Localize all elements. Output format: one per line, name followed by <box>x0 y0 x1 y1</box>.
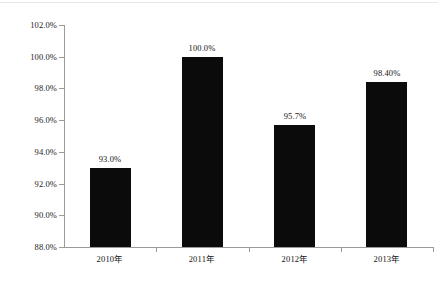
bar <box>90 168 131 247</box>
y-axis-tick-label: 96.0% <box>1 116 57 125</box>
y-axis-tick-mark <box>59 215 64 216</box>
x-axis-tick-mark <box>156 247 157 252</box>
bar <box>182 57 223 247</box>
bar-chart: 102.0%100.0%98.0%96.0%94.0%92.0%90.0%88.… <box>0 0 438 282</box>
bar <box>366 82 407 247</box>
y-axis-tick-mark <box>59 57 64 58</box>
bar-value-label: 100.0% <box>162 44 242 53</box>
y-axis-tick-mark <box>59 152 64 153</box>
x-axis-tick-mark <box>433 247 434 252</box>
y-axis-tick-label: 90.0% <box>1 211 57 220</box>
y-axis-tick-label: 92.0% <box>1 180 57 189</box>
top-border-rule <box>0 2 438 3</box>
bar-value-label: 93.0% <box>70 155 150 164</box>
y-axis-tick-label: 102.0% <box>1 21 57 30</box>
y-axis-tick-label: 88.0% <box>1 243 57 252</box>
x-axis-tick-mark <box>249 247 250 252</box>
bar-value-label: 98.40% <box>347 69 427 78</box>
y-axis-labels: 102.0%100.0%98.0%96.0%94.0%92.0%90.0%88.… <box>0 0 57 282</box>
bar-value-label: 95.7% <box>255 112 335 121</box>
x-axis-tick-mark <box>341 247 342 252</box>
y-axis-tick-label: 100.0% <box>1 53 57 62</box>
x-axis-category-label: 2013年 <box>347 255 427 264</box>
y-axis-tick-label: 94.0% <box>1 148 57 157</box>
bar <box>274 125 315 247</box>
y-axis-tick-mark <box>59 88 64 89</box>
y-axis-tick-mark <box>59 184 64 185</box>
y-axis-tick-mark <box>59 25 64 26</box>
y-axis-tick-mark <box>59 247 64 248</box>
y-axis-line <box>64 25 65 248</box>
y-axis-tick-mark <box>59 120 64 121</box>
x-axis-category-label: 2010年 <box>70 255 150 264</box>
x-axis-category-label: 2011年 <box>162 255 242 264</box>
y-axis-tick-label: 98.0% <box>1 84 57 93</box>
x-axis-category-label: 2012年 <box>255 255 335 264</box>
